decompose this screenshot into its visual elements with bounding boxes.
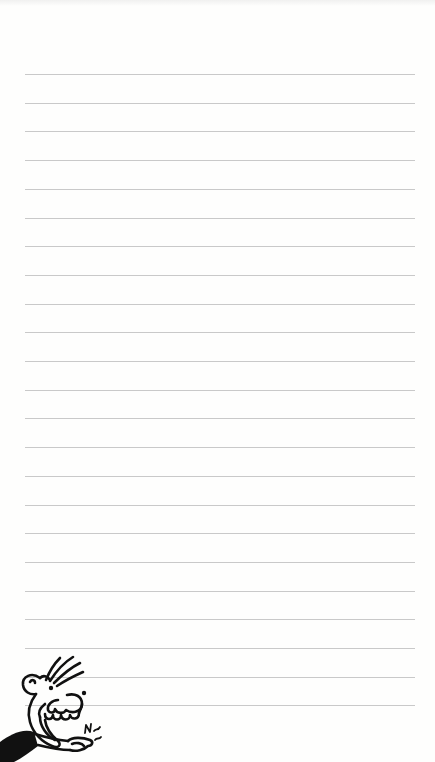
shirt (0, 731, 38, 762)
ruled-line (25, 160, 415, 161)
eye (49, 686, 53, 690)
nose (48, 694, 82, 712)
cartoon-character-icon (0, 640, 120, 762)
ruled-line (25, 447, 415, 448)
ruled-line (25, 332, 415, 333)
ruled-line (25, 418, 415, 419)
ruled-line (25, 562, 415, 563)
ruled-line (25, 74, 415, 75)
snap-mark (94, 727, 100, 731)
snap-mark (95, 737, 101, 740)
ruled-line (25, 505, 415, 506)
page-bleed-through (0, 0, 435, 6)
hair-strand (57, 672, 83, 686)
ruled-line (25, 390, 415, 391)
ruled-line (25, 189, 415, 190)
ruled-line (25, 361, 415, 362)
ruled-line (25, 218, 415, 219)
eye (82, 691, 86, 695)
ruled-line (25, 476, 415, 477)
ruled-line (25, 131, 415, 132)
ear (23, 675, 40, 694)
ruled-line (25, 591, 415, 592)
ruled-line (25, 304, 415, 305)
ruled-line (25, 103, 415, 104)
notebook-page (0, 0, 435, 762)
ruled-line (25, 246, 415, 247)
snap-mark (85, 724, 91, 733)
ruled-line (25, 533, 415, 534)
ruled-line (25, 619, 415, 620)
ruled-line (25, 275, 415, 276)
